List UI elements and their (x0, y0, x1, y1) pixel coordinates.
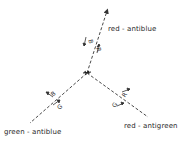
label-green-antiblue: green - antiblue (4, 128, 61, 136)
label-red-antigreen: red - antigreen (124, 122, 178, 130)
line-red-antigreen (87, 73, 148, 117)
label-red-antiblue: red - antiblue (108, 25, 156, 33)
line-green-antiblue (30, 73, 87, 123)
